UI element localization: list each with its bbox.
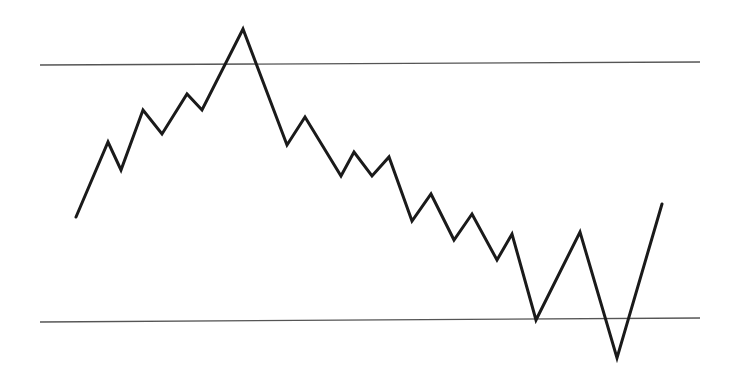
price-line (76, 29, 662, 358)
line-chart (0, 0, 737, 384)
upper-horizontal-line (40, 62, 700, 65)
lower-horizontal-line (40, 318, 700, 322)
chart-container (0, 0, 737, 384)
